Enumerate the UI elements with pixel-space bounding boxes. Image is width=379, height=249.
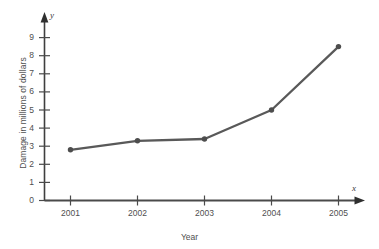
data-point-markers [68,44,341,153]
data-point-2004 [269,107,274,112]
data-point-2001 [68,147,73,152]
y-axis-title: Damage in millions of dollars [18,38,28,188]
y-axis-variable-label: y [50,10,54,20]
y-tick-label-0: 0 [18,196,34,205]
x-tick-label-2004: 2004 [252,209,292,218]
data-point-2003 [202,136,207,141]
data-point-2005 [336,44,341,49]
x-tick-label-2005: 2005 [319,209,359,218]
x-axis-title: Year [0,232,379,242]
data-point-2002 [135,138,140,143]
y-axis [41,12,49,201]
y-axis-arrowhead-icon [41,12,49,23]
x-tick-label-2003: 2003 [185,209,225,218]
x-tick-label-2001: 2001 [51,209,91,218]
x-tick-label-2002: 2002 [118,209,158,218]
x-axis-arrowhead-icon [355,196,366,204]
data-line-series-damage [71,47,339,150]
line-chart: 0 1 2 3 4 5 6 7 8 9 2001 2002 2003 2004 … [0,0,379,249]
x-axis-variable-label: x [352,183,356,193]
